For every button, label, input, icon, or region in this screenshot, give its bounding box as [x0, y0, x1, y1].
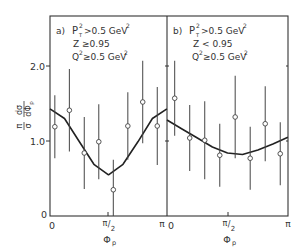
y-tick-2: 2.0	[30, 61, 45, 72]
data-point	[217, 153, 222, 158]
svg-text:p: p	[28, 101, 35, 105]
svg-text:2: 2	[243, 22, 247, 29]
svg-text:>0.5 GeV: >0.5 GeV	[201, 26, 245, 36]
panel-b-plot	[167, 61, 288, 190]
figure: 2.0 1.0 0 0 π / 2 π 0 π / 2 π Φ p Φ p π …	[0, 0, 299, 251]
svg-text:π: π	[15, 123, 24, 128]
data-point	[82, 151, 87, 156]
data-point	[96, 139, 101, 144]
data-point	[233, 115, 238, 120]
svg-text:2: 2	[231, 225, 235, 233]
data-point	[278, 151, 283, 156]
data-point	[126, 124, 131, 129]
svg-text:≥0.5 GeV: ≥0.5 GeV	[203, 52, 247, 62]
svg-text:T: T	[78, 32, 83, 38]
panel-a-cuts: a) P 2 T >0.5 GeV 2 Z ≥0.95 Q 2 ≥0.5 GeV…	[56, 22, 130, 62]
svg-text:2: 2	[126, 22, 130, 29]
svg-text:b): b)	[173, 26, 182, 36]
x-axis-label-b: Φ p	[223, 234, 236, 247]
data-point	[263, 121, 268, 126]
data-point	[202, 138, 207, 143]
data-point	[172, 96, 177, 101]
data-point	[67, 108, 72, 113]
svg-text:Z ≥0.95: Z ≥0.95	[73, 39, 110, 49]
svg-text:σ: σ	[24, 123, 33, 128]
svg-text:Φ: Φ	[223, 234, 230, 245]
data-point	[53, 124, 58, 129]
x-axis-label-a: Φ p	[103, 234, 116, 247]
x-tick-a-0: 0	[49, 220, 55, 231]
y-axis-label: π σ dσ dΦ p	[15, 101, 35, 130]
svg-text:2: 2	[79, 22, 83, 29]
data-point	[140, 100, 145, 105]
svg-text:a): a)	[56, 26, 65, 36]
svg-text:>0.5 GeV: >0.5 GeV	[84, 26, 128, 36]
fit-curve	[167, 120, 288, 155]
svg-text:P: P	[72, 25, 78, 36]
svg-text:dσ: dσ	[15, 105, 24, 115]
data-point	[187, 136, 192, 141]
x-tick-a-halfpi: π / 2	[103, 219, 116, 233]
data-point	[111, 187, 116, 192]
y-tick-1: 1.0	[30, 136, 45, 147]
fit-curve	[50, 109, 167, 175]
svg-text:p: p	[112, 239, 116, 247]
svg-text:2: 2	[244, 49, 248, 56]
svg-text:p: p	[232, 239, 236, 247]
svg-text:2: 2	[196, 22, 200, 29]
svg-text:2: 2	[111, 225, 115, 233]
svg-text:Z < 0.95: Z < 0.95	[193, 39, 232, 49]
svg-text:2: 2	[124, 49, 128, 56]
x-tick-a-pi: π	[159, 219, 165, 229]
x-tick-b-halfpi: π / 2	[223, 219, 236, 233]
data-point	[248, 156, 253, 161]
y-tick-0: 0	[41, 209, 47, 220]
svg-text:P: P	[189, 25, 195, 36]
panel-b-cuts: b) P 2 T >0.5 GeV 2 Z < 0.95 Q 2 ≥0.5 Ge…	[173, 22, 248, 62]
data-point	[155, 124, 160, 129]
x-tick-b-pi: π	[285, 219, 291, 229]
svg-text:Φ: Φ	[103, 234, 110, 245]
panel-a-plot	[50, 61, 167, 216]
svg-text:dΦ: dΦ	[24, 105, 33, 116]
svg-text:T: T	[195, 32, 200, 38]
x-tick-b-0: 0	[168, 220, 174, 231]
svg-text:≥0.5 GeV: ≥0.5 GeV	[83, 52, 127, 62]
